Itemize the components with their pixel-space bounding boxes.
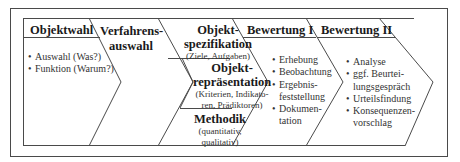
list-item: Erhebung <box>272 54 332 66</box>
title-line: auswahl <box>100 39 162 54</box>
list-item: ggf. Beurtei-lungsgespräch <box>346 68 415 93</box>
list-item: Ergebnis-feststellung <box>272 79 332 104</box>
objektrepraesentation-title: Objekt- repräsentation <box>193 61 271 89</box>
stage-objektwahl-list: Auswahl (Was?) Funktion (Warum?) <box>28 51 114 76</box>
stage-objektrepraesentation: Objekt- repräsentation (Kriterien, Indik… <box>193 61 271 110</box>
objektrepraesentation-sub: (Kriterien, Indikato- ren, Prädiktoren) <box>193 89 271 110</box>
methodik-title: Methodik <box>185 112 255 126</box>
list-item: Beobachtung <box>272 66 332 78</box>
stage-methodik: Methodik (quantitativ, qualitativ) <box>185 112 255 147</box>
list-item: Urteilsfindung <box>346 93 415 105</box>
title-line: Verfahrens- <box>100 24 162 39</box>
list-item: Analyse <box>346 56 415 68</box>
stage-objektspezifikation: Objekt- spezifikation (Ziele, Aufgaben) <box>180 23 256 62</box>
stage-bewertung1-list: Erhebung Beobachtung Ergebnis-feststellu… <box>272 54 332 128</box>
objektspezifikation-title: Objekt- spezifikation <box>180 23 256 51</box>
list-item: Funktion (Warum?) <box>28 63 114 75</box>
stage-bewertung2-list: Analyse ggf. Beurtei-lungsgespräch Urtei… <box>346 56 415 130</box>
list-item: Konsequenzen-vorschlag <box>346 105 415 130</box>
methodik-sub: (quantitativ, qualitativ) <box>185 126 255 147</box>
stage-bewertung2-title: Bewertung II <box>321 24 392 37</box>
stage-objektwahl-title: Objektwahl <box>30 24 93 37</box>
list-item: Dokumen-tation <box>272 103 332 128</box>
stage-bewertung1-title: Bewertung I <box>247 24 313 37</box>
stage-verfahrensauswahl-title: Verfahrens- auswahl <box>100 24 162 54</box>
